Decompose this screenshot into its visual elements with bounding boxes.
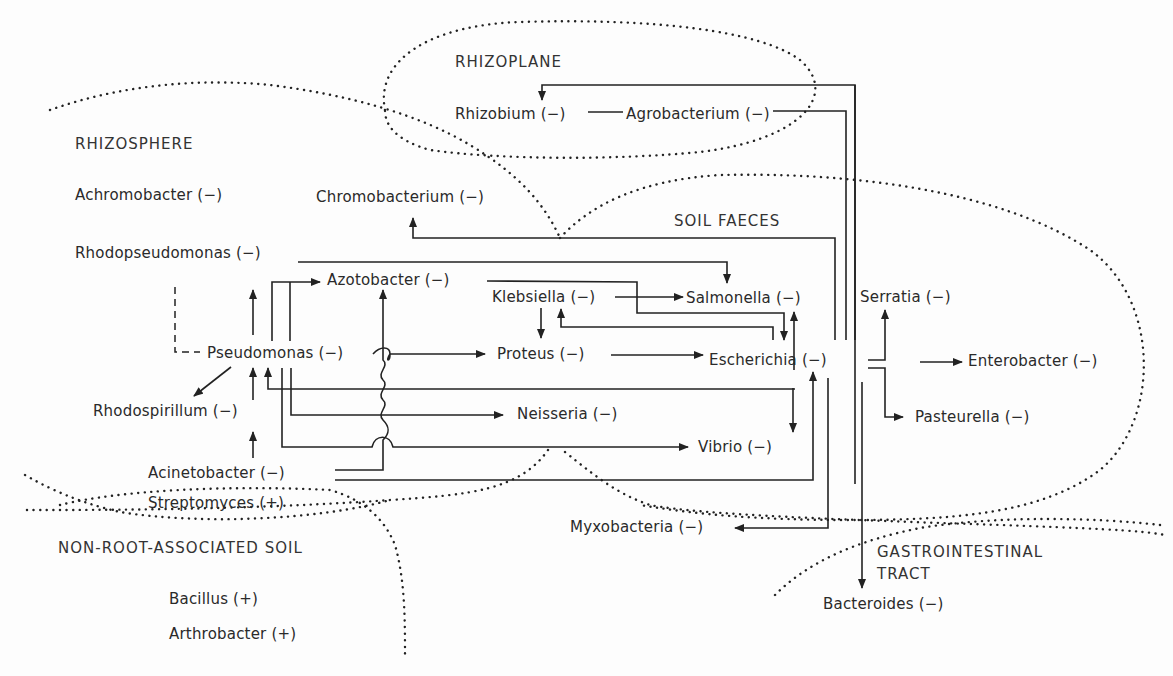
region-label-tract: TRACT <box>877 567 931 582</box>
organism-pseudomonas: Pseudomonas (−) <box>207 346 343 361</box>
dashed-link <box>175 287 200 352</box>
region-label-soil-faeces: SOIL FAECES <box>674 214 780 229</box>
organism-rhodopseudomonas: Rhodopseudomonas (−) <box>75 246 261 261</box>
organism-arthrobacter: Arthrobacter (+) <box>169 627 296 642</box>
organism-myxobacteria: Myxobacteria (−) <box>570 520 703 535</box>
bacterial-relationship-diagram: RHIZOPLANE RHIZOSPHERE SOIL FAECES NON-R… <box>0 0 1173 676</box>
organism-rhizobium: Rhizobium (−) <box>455 107 566 122</box>
organism-salmonella: Salmonella (−) <box>686 291 801 306</box>
region-label-rhizoplane: RHIZOPLANE <box>455 55 562 70</box>
organism-acinetobacter: Acinetobacter (−) <box>148 466 285 481</box>
organism-rhodospirillum: Rhodospirillum (−) <box>93 404 238 419</box>
organism-chromobacterium: Chromobacterium (−) <box>316 190 484 205</box>
organism-agrobacterium: Agrobacterium (−) <box>626 107 770 122</box>
organism-serratia: Serratia (−) <box>860 290 951 305</box>
region-label-rhizosphere: RHIZOSPHERE <box>75 137 193 152</box>
organism-neisseria: Neisseria (−) <box>517 407 618 422</box>
organism-bacillus: Bacillus (+) <box>169 592 258 607</box>
organism-azotobacter: Azotobacter (−) <box>327 273 450 288</box>
arrows <box>194 85 962 588</box>
diagram-lines <box>0 0 1173 676</box>
organism-enterobacter: Enterobacter (−) <box>968 354 1098 369</box>
organism-escherichia: Escherichia (−) <box>709 353 827 368</box>
organism-streptomyces: Streptomyces (+) <box>148 496 284 511</box>
organism-achromobacter: Achromobacter (−) <box>75 188 222 203</box>
region-label-non-root-soil: NON-ROOT-ASSOCIATED SOIL <box>58 541 303 556</box>
organism-bacteroides: Bacteroides (−) <box>823 597 944 612</box>
region-label-gastrointestinal: GASTROINTESTINAL <box>877 545 1043 560</box>
organism-vibrio: Vibrio (−) <box>698 440 772 455</box>
organism-pasteurella: Pasteurella (−) <box>915 410 1030 425</box>
organism-klebsiella: Klebsiella (−) <box>492 290 595 305</box>
organism-proteus: Proteus (−) <box>497 347 584 362</box>
